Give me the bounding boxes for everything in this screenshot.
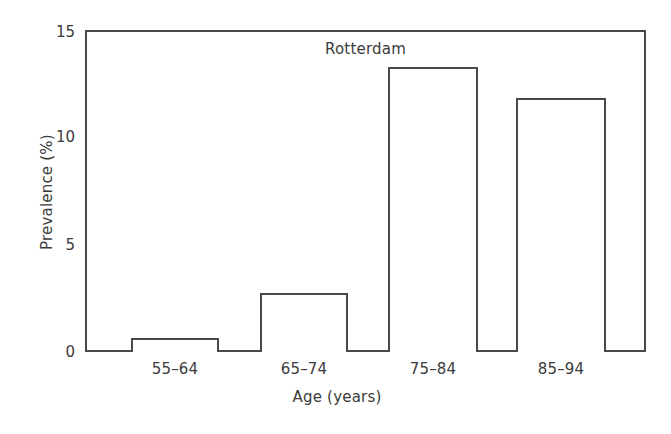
x-tick-label-85-94: 85–94 bbox=[538, 360, 585, 378]
x-axis-title-wrapper: Age (years) bbox=[0, 388, 671, 406]
x-tick-label-65-74: 65–74 bbox=[281, 360, 328, 378]
bar-55-64 bbox=[131, 338, 219, 352]
y-tick-label-10: 10 bbox=[47, 128, 75, 146]
x-axis-title: Age (years) bbox=[293, 388, 382, 406]
chart-title: Rotterdam bbox=[87, 40, 644, 58]
y-tick-label-15: 15 bbox=[47, 23, 75, 41]
x-tick-label-55-64: 55–64 bbox=[152, 360, 199, 378]
y-tick-label-5: 5 bbox=[47, 236, 75, 254]
y-axis-tick-labels: 15 10 5 0 bbox=[45, 0, 75, 434]
bar-85-94 bbox=[516, 98, 606, 352]
scan-artifact-text bbox=[40, 427, 641, 434]
bar-chart-figure: Prevalence (%) 15 10 5 0 Rotterdam 55–64… bbox=[0, 0, 671, 434]
bar-75-84 bbox=[388, 67, 478, 352]
y-tick-label-0: 0 bbox=[47, 343, 75, 361]
bar-65-74 bbox=[260, 293, 348, 352]
x-tick-label-75-84: 75–84 bbox=[410, 360, 457, 378]
